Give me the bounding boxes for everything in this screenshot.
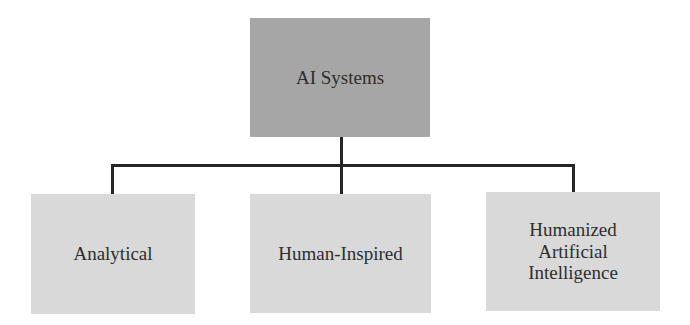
connector-horizontal-bar xyxy=(111,164,575,167)
root-node-label: AI Systems xyxy=(296,67,384,89)
connector-child-2 xyxy=(340,164,343,194)
label-line: Intelligence xyxy=(528,262,618,284)
child-node-human-inspired: Human-Inspired xyxy=(250,194,431,313)
child-node-humanized-ai: Humanized Artificial Intelligence xyxy=(486,192,660,311)
child-node-label: Humanized Artificial Intelligence xyxy=(528,219,618,285)
connector-root-stem xyxy=(340,137,343,166)
child-node-analytical: Analytical xyxy=(31,194,195,314)
label-line: Humanized xyxy=(528,219,618,241)
connector-child-3 xyxy=(572,164,575,192)
label-line: Artificial xyxy=(528,241,618,263)
child-node-label: Analytical xyxy=(73,243,152,265)
root-node-ai-systems: AI Systems xyxy=(250,18,430,137)
connector-child-1 xyxy=(111,164,114,194)
child-node-label: Human-Inspired xyxy=(278,243,403,265)
